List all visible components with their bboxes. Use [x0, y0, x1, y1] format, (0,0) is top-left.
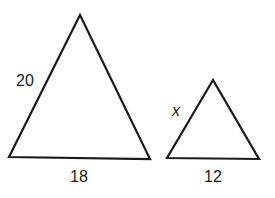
small-triangle-base-label: 12: [204, 169, 222, 185]
large-triangle-base-label: 18: [70, 169, 88, 185]
triangles-figure: [0, 0, 275, 198]
large-triangle-side-label: 20: [16, 73, 34, 89]
small-triangle-side-label: x: [172, 103, 180, 119]
small-triangle: [167, 80, 259, 159]
